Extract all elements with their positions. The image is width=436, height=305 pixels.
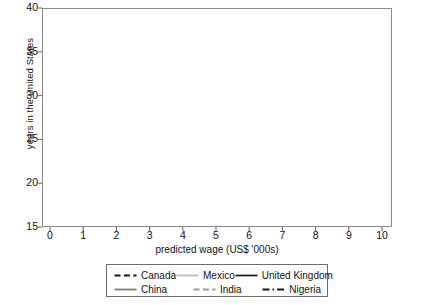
legend-swatch-solid [235, 271, 258, 280]
legend-swatch-dashdot [262, 285, 285, 294]
legend-label: Mexico [203, 270, 235, 281]
legend-swatch-solid [114, 285, 137, 294]
legend-item-canada[interactable]: Canada [114, 268, 176, 282]
x-tick-label: 3 [140, 229, 160, 241]
legend-swatch-solid [176, 271, 199, 280]
x-tick-label: 2 [106, 229, 126, 241]
plot-area-frame [42, 8, 392, 227]
x-tick-label: 8 [306, 229, 326, 241]
legend-item-india[interactable]: India [193, 282, 262, 296]
y-axis-title: years in the United States [24, 4, 35, 184]
y-tick-label: 15 [14, 220, 38, 232]
x-tick-label: 9 [339, 229, 359, 241]
x-tick-label: 10 [372, 229, 392, 241]
x-tick-label: 5 [206, 229, 226, 241]
x-tick-label: 0 [40, 229, 60, 241]
legend-row: CanadaMexicoUnited Kingdom [114, 268, 321, 282]
chart-legend: CanadaMexicoUnited KingdomChinaIndiaNige… [106, 264, 328, 297]
legend-row: ChinaIndiaNigeria [114, 282, 321, 296]
legend-item-nigeria[interactable]: Nigeria [262, 282, 321, 296]
legend-label: Nigeria [289, 284, 321, 295]
legend-label: Canada [141, 270, 176, 281]
x-tick-label: 4 [173, 229, 193, 241]
legend-item-united-kingdom[interactable]: United Kingdom [235, 268, 333, 282]
legend-label: United Kingdom [262, 270, 333, 281]
chart-figure: 152025303540 012345678910 years in the U… [0, 0, 436, 305]
x-tick-label: 1 [73, 229, 93, 241]
x-axis-title: predicted wage (US$ '000s) [42, 244, 392, 255]
legend-item-mexico[interactable]: Mexico [176, 268, 235, 282]
legend-label: India [220, 284, 242, 295]
legend-swatch-dashed [193, 285, 216, 294]
legend-label: China [141, 284, 167, 295]
x-tick-label: 6 [239, 229, 259, 241]
legend-item-china[interactable]: China [114, 282, 193, 296]
legend-swatch-dashed [114, 271, 137, 280]
x-tick-label: 7 [272, 229, 292, 241]
